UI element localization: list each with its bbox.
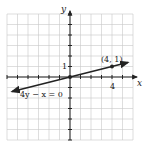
equation-label: 4y − x = 0	[20, 90, 63, 99]
y-tick-label-1: 1	[62, 62, 67, 71]
data-point	[68, 75, 72, 79]
coordinate-plane: y x 1 4 (4, 1) 4y − x = 0	[0, 0, 146, 148]
data-point	[110, 65, 114, 69]
y-axis-label: y	[60, 4, 67, 14]
x-axis-label: x	[137, 78, 142, 88]
x-tick-label-4: 4	[110, 82, 115, 91]
point-label: (4, 1)	[101, 55, 123, 64]
